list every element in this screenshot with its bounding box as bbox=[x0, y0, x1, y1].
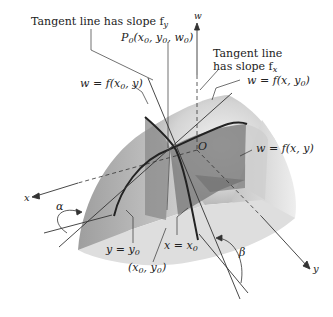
partial-derivative-diagram: Tangent line has slope fy P0(x0, y0, w0)… bbox=[0, 0, 333, 317]
label-tangent-fx-line2: has slope fx bbox=[213, 60, 278, 74]
label-w-axis: w bbox=[194, 11, 202, 21]
label-beta: β bbox=[238, 246, 245, 259]
label-y-axis: y bbox=[312, 263, 319, 274]
label-tangent-fx-line1: Tangent line bbox=[213, 47, 282, 60]
x-axis-arrow bbox=[32, 193, 40, 199]
label-tangent-fy: Tangent line has slope fy bbox=[31, 15, 169, 29]
x-axis bbox=[36, 183, 78, 196]
label-p0: P0(x0, y0, w0) bbox=[120, 31, 193, 45]
label-curve-x0: w = f(x0, y) bbox=[80, 77, 143, 91]
label-curve-y0: w = f(x, y0) bbox=[247, 74, 310, 88]
alpha-arc-arrow bbox=[76, 209, 82, 215]
w-axis-arrow bbox=[195, 23, 200, 30]
leader-tangent-fx bbox=[200, 70, 218, 90]
label-x-axis: x bbox=[24, 192, 30, 203]
plane-right-light bbox=[245, 124, 268, 200]
label-origin: O bbox=[198, 140, 207, 153]
label-plane-y0: y = y0 bbox=[105, 243, 140, 257]
label-surface: w = f(x, y) bbox=[256, 142, 314, 155]
label-alpha: α bbox=[56, 200, 64, 213]
